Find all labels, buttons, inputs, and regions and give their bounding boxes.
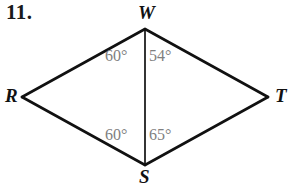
geometry-figure (0, 0, 296, 193)
vertex-label-t: T (275, 86, 287, 105)
vertex-label-w: W (138, 3, 155, 22)
problem-figure-page: 11. W R T S 60° 54° 60° 65° (0, 0, 296, 193)
vertex-label-s: S (139, 167, 150, 186)
angle-label-rws: 60° (105, 48, 127, 64)
angle-label-wst: 65° (149, 127, 171, 143)
vertex-label-r: R (5, 86, 18, 105)
angle-label-swt: 54° (149, 48, 171, 64)
angle-label-rsw: 60° (105, 127, 127, 143)
